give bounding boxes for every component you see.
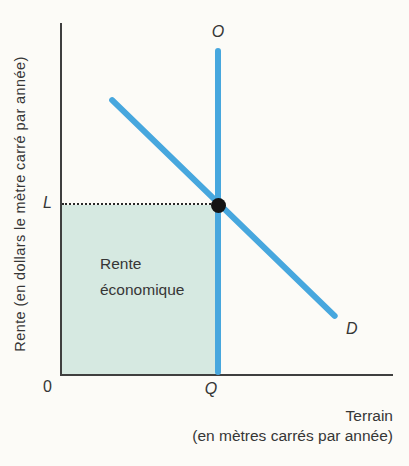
x-axis-title-line1: Terrain [192, 406, 393, 426]
equilibrium-dot [211, 198, 226, 213]
demand-label: D [346, 320, 358, 338]
figure-rente-economique: O D L Q 0 Rente économique Rente (en dol… [0, 0, 409, 466]
dotted-guide-line [62, 203, 218, 205]
y-axis-title: Rente (en dollars le mètre carré par ann… [12, 56, 28, 351]
rent-area-label: Rente économique [100, 251, 184, 303]
origin-label: 0 [43, 378, 52, 396]
x-axis [60, 374, 393, 376]
y-axis [60, 23, 62, 376]
x-axis-title: Terrain (en mètres carrés par année) [192, 406, 393, 446]
quantity-label: Q [205, 380, 217, 398]
price-label: L [43, 194, 52, 212]
rent-area-label-line1: Rente [100, 251, 184, 277]
supply-label: O [212, 23, 224, 41]
rent-area-label-line2: économique [100, 277, 184, 303]
x-axis-title-line2: (en mètres carrés par année) [192, 426, 393, 446]
